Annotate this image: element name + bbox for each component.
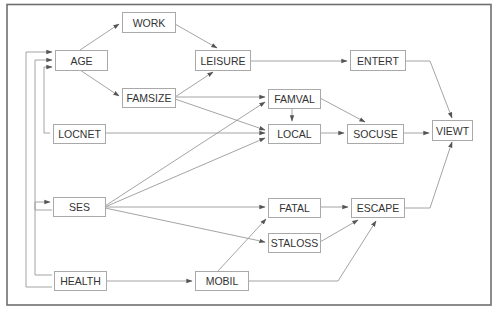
node-label: AGE: [70, 55, 92, 67]
edge-famval-to-socuse: [320, 98, 365, 122]
node-escape: ESCAPE: [352, 199, 405, 218]
edge-staloss-to-escape: [320, 220, 358, 242]
node-label: FAMVAL: [274, 93, 315, 105]
edge-health-to-age: [26, 52, 52, 287]
edge-entert-to-viewt: [405, 61, 452, 118]
node-label: ESCAPE: [357, 202, 400, 214]
edge-mobil-to-fatal: [218, 219, 266, 271]
node-label: SES: [69, 201, 90, 213]
edge-escape-to-viewt: [404, 142, 452, 208]
node-health: HEALTH: [55, 272, 107, 291]
node-age: AGE: [56, 51, 108, 71]
node-ses: SES: [54, 198, 106, 217]
node-label: MOBIL: [206, 275, 239, 287]
edge-ses-to-age: [35, 60, 52, 210]
node-label: LOCNET: [58, 128, 101, 140]
node-locnet: LOCNET: [54, 125, 106, 144]
node-label: ENTERT: [357, 55, 399, 67]
node-label: STALOSS: [271, 237, 319, 249]
node-label: HEALTH: [60, 275, 101, 287]
edge-ses-to-famval: [105, 102, 265, 206]
node-label: WORK: [133, 17, 166, 29]
node-label: FAMSIZE: [127, 92, 172, 104]
edge-health-to-ses: [35, 202, 52, 275]
node-socuse: SOCUSE: [348, 125, 404, 144]
node-label: LOCAL: [277, 128, 312, 140]
nodes-group: AGEWORKFAMSIZELEISUREENTERTLOCNETFAMVALL…: [54, 13, 473, 291]
node-mobil: MOBIL: [196, 272, 249, 291]
diagram-frame: [7, 5, 491, 306]
node-label: LEISURE: [201, 55, 246, 67]
edge-age-to-work: [80, 24, 119, 50]
node-entert: ENTERT: [351, 51, 406, 71]
path-diagram: AGEWORKFAMSIZELEISUREENTERTLOCNETFAMVALL…: [0, 0, 495, 311]
node-fatal: FATAL: [269, 199, 321, 218]
edge-famsize-to-local: [175, 99, 265, 130]
edge-work-to-leisure: [175, 24, 217, 48]
node-label: SOCUSE: [353, 128, 397, 140]
node-viewt: VIEWT: [433, 121, 473, 141]
node-famsize: FAMSIZE: [123, 89, 176, 108]
edge-locnet-to-age: [44, 67, 52, 133]
edge-ses-to-local: [105, 138, 265, 207]
node-label: FATAL: [279, 202, 310, 214]
node-staloss: STALOSS: [269, 234, 321, 253]
edge-famsize-to-leisure: [175, 72, 213, 97]
node-local: LOCAL: [269, 125, 321, 144]
node-famval: FAMVAL: [269, 90, 321, 109]
edge-age-to-famsize: [80, 70, 119, 96]
edge-ses-to-staloss: [105, 208, 265, 242]
node-work: WORK: [123, 13, 176, 33]
node-label: VIEWT: [436, 125, 470, 137]
node-leisure: LEISURE: [196, 51, 251, 71]
